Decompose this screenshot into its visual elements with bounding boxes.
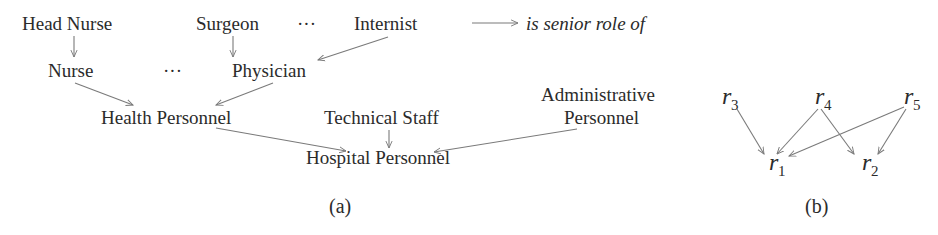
diagram-a: Head Nurse Surgeon ··· Internist is seni… xyxy=(22,13,655,218)
diagram-b: r 3 r 4 r 5 r 1 r 2 (b) xyxy=(722,83,921,218)
edge-administrative-to-hospital-personnel xyxy=(434,129,577,152)
node-r4: r 4 xyxy=(815,83,832,113)
node-r5: r 5 xyxy=(904,83,921,113)
node-physician: Physician xyxy=(232,60,306,81)
edge-nurse-to-health-personnel xyxy=(75,83,133,105)
edge-r4-to-r1 xyxy=(777,109,818,154)
edge-physician-to-health-personnel xyxy=(216,83,273,105)
node-technical-staff: Technical Staff xyxy=(324,107,440,128)
node-hospital-personnel: Hospital Personnel xyxy=(306,147,450,168)
ellipsis-mid: ··· xyxy=(163,60,182,81)
edge-health-personnel-to-hospital-personnel xyxy=(216,128,346,151)
node-administrative-personnel-line2: Personnel xyxy=(564,107,639,128)
caption-a: (a) xyxy=(329,195,351,218)
role-hierarchy-figure: Head Nurse Surgeon ··· Internist is seni… xyxy=(0,0,938,235)
edge-internist-to-physician xyxy=(318,37,388,60)
node-head-nurse: Head Nurse xyxy=(22,13,112,34)
caption-b: (b) xyxy=(805,195,828,218)
svg-text:4: 4 xyxy=(824,97,832,113)
legend-label: is senior role of xyxy=(526,13,648,34)
svg-text:2: 2 xyxy=(871,163,879,179)
edge-r4-to-r2 xyxy=(821,109,854,154)
ellipsis-top: ··· xyxy=(297,13,316,34)
node-nurse: Nurse xyxy=(48,60,93,81)
node-surgeon: Surgeon xyxy=(196,13,259,34)
edge-r3-to-r1 xyxy=(737,109,764,154)
node-health-personnel: Health Personnel xyxy=(101,107,231,128)
node-r3: r 3 xyxy=(722,83,739,113)
node-r2: r 2 xyxy=(862,149,879,179)
edge-r5-to-r1 xyxy=(789,107,904,156)
svg-text:5: 5 xyxy=(913,97,921,113)
node-administrative-personnel-line1: Administrative xyxy=(541,84,655,105)
svg-text:1: 1 xyxy=(778,163,786,179)
node-internist: Internist xyxy=(354,13,418,34)
